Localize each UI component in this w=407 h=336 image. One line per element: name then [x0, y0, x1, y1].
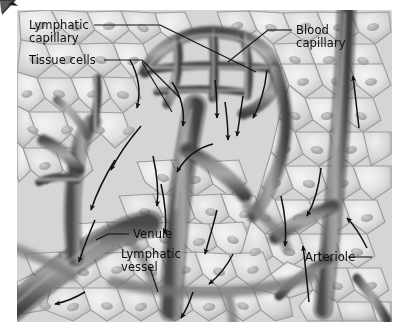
figure-canvas: Lymphatic capillary Tissue cells Blood c… — [0, 0, 407, 336]
label-arteriole: Arteriole — [305, 251, 355, 264]
label-blood-capillary: Blood capillary — [296, 24, 346, 50]
page-curl-icon — [0, 0, 22, 20]
label-lymphatic-capillary: Lymphatic capillary — [29, 19, 89, 45]
label-venule: Venule — [133, 228, 173, 241]
label-lymphatic-vessel: Lymphatic vessel — [121, 248, 181, 274]
label-tissue-cells: Tissue cells — [29, 54, 96, 67]
